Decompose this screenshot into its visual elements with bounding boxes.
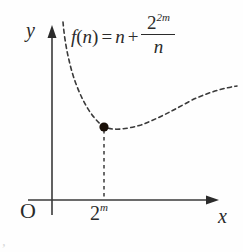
equation-fraction: 22m n [141,13,175,57]
equation-plus-sign: + [128,27,139,46]
math-figure: y x O 2m f(n) = n + 22m n , [0,0,243,252]
equation-argument: n [83,26,93,47]
scan-artifact: , [2,233,12,245]
numerator-exponent: 2m [156,11,169,23]
x-axis-label: x [218,206,227,226]
equation-first-term: n [115,27,125,46]
fraction-denominator: n [151,35,167,57]
y-axis-label: y [26,20,35,40]
x-axis [28,196,219,205]
function-equation: f(n) = n + 22m n [71,14,176,58]
y-axis-arrowhead [48,25,57,38]
equation-equals-sign: = [101,27,112,46]
origin-label: O [20,200,36,222]
equation-close-paren: ) [92,26,98,47]
equation-lhs: f(n) [71,27,98,46]
numerator-base: 2 [147,12,157,33]
fraction-numerator: 22m [144,13,173,34]
x-tick-label-2-pow-m: 2m [90,203,108,223]
x-tick-base: 2 [90,202,100,224]
x-axis-arrowhead [206,196,219,205]
y-axis [48,25,57,215]
minimum-point-marker [99,122,108,131]
x-tick-exponent: m [100,201,108,213]
